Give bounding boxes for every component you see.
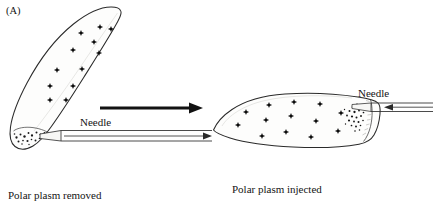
host-egg-outline	[214, 93, 381, 147]
caption-donor: Polar plasm removed from donor egg	[8, 163, 101, 202]
transfer-arrow-head	[189, 103, 203, 114]
injection-needle	[352, 103, 433, 112]
panel-label: (A)	[6, 5, 21, 17]
needle-label-left: Needle	[80, 116, 111, 129]
needle-label-right: Needle	[358, 87, 389, 100]
injection-flow-arrow-head	[384, 104, 393, 111]
caption-donor-line-1: Polar plasm removed	[8, 189, 101, 202]
transfer-arrow	[100, 103, 203, 114]
figure-panel-a: (A) Needle Needle Polar plasm removed fr…	[0, 0, 433, 202]
aspiration-flow-arrow-head	[203, 133, 212, 140]
host-egg	[214, 93, 381, 147]
aspiration-needle	[40, 131, 212, 142]
caption-host-line-1: Polar plasm injected	[232, 183, 334, 196]
caption-host: Polar plasm injected (slightly off-cente…	[232, 157, 334, 202]
